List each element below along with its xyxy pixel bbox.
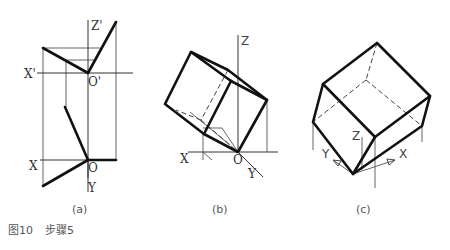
label-x: X (399, 147, 407, 161)
label-y: Y (87, 181, 97, 195)
caption-b: (b) (212, 203, 228, 216)
panel-c: Z Y X (c) (313, 43, 430, 216)
figure-caption: 图10步骤5 (8, 221, 86, 237)
label-z: Z (241, 34, 249, 48)
edge-front (43, 48, 88, 73)
label-o: O (88, 161, 98, 175)
cube-edge (231, 81, 267, 100)
figure-number: 图10 (8, 224, 33, 237)
cube-edge (191, 52, 231, 81)
caption-a: (a) (72, 203, 87, 216)
projection-line (203, 152, 212, 160)
edge-top (65, 107, 88, 160)
label-z: Z (352, 129, 360, 143)
label-x-prime: X' (24, 67, 36, 81)
caption-c: (c) (356, 203, 371, 216)
cube-edge (323, 84, 375, 137)
cube-outline (165, 52, 267, 152)
diagram-canvas: Z' X' O' X O Y (a) Z X O Y (b) (0, 0, 450, 250)
x-arrowhead-icon (387, 159, 395, 165)
hidden-edge (366, 80, 422, 126)
panel-b: Z X O Y (b) (165, 34, 278, 216)
label-y: Y (321, 147, 330, 161)
label-y: Y (247, 167, 257, 181)
label-o-prime: O' (88, 75, 101, 89)
panel-a: Z' X' O' X O Y (a) (24, 19, 133, 216)
edge-top (43, 160, 88, 186)
label-z-prime: Z' (91, 19, 103, 33)
label-o: O (233, 153, 243, 167)
label-x: X (29, 159, 38, 173)
figure-title: 步骤5 (45, 224, 74, 237)
label-x: X (180, 152, 189, 166)
